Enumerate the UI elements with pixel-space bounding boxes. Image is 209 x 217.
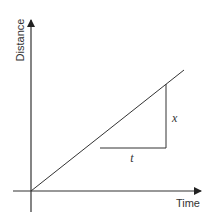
y-axis-label: Distance <box>14 19 26 62</box>
triangle-horizontal-label: t <box>130 151 134 165</box>
distance-time-line <box>31 70 184 191</box>
x-axis-label: Time <box>176 197 200 209</box>
triangle-vertical-label: x <box>171 111 178 125</box>
distance-time-diagram: Distance Time x t <box>0 0 209 217</box>
